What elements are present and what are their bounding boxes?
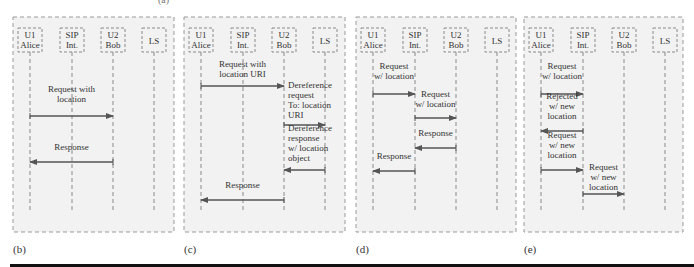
message-label: response xyxy=(288,133,320,143)
participant-label: LS xyxy=(149,36,160,46)
participant-label: Int. xyxy=(409,40,421,50)
message-label: w/ location xyxy=(288,143,329,153)
participant-label: SIP xyxy=(408,30,421,40)
message-label: Response xyxy=(418,128,453,138)
participant-label: Int. xyxy=(577,40,589,50)
participant-label: U1 xyxy=(25,30,36,40)
message-label: Response xyxy=(54,142,89,152)
participant-label: LS xyxy=(320,36,331,46)
message-label: Dereference xyxy=(288,80,332,90)
participant-label: SIP xyxy=(65,30,78,40)
panel-label-b: (b) xyxy=(13,243,26,255)
message-label: w/ new xyxy=(549,101,576,111)
panel-label-d: (d) xyxy=(356,243,369,255)
message-label: location xyxy=(548,111,577,121)
participant-label: Bob xyxy=(276,40,292,50)
panel-label-e: (e) xyxy=(524,243,536,255)
participant-label: Bob xyxy=(105,40,121,50)
participant-label: U2 xyxy=(619,30,630,40)
message-label: w/ location xyxy=(415,99,456,109)
participant-label: SIP xyxy=(576,30,589,40)
message-label: object xyxy=(288,153,310,163)
message-label: location xyxy=(548,150,577,160)
participant-label: U2 xyxy=(279,30,290,40)
message-label: URI xyxy=(288,110,304,120)
message-label: Response xyxy=(377,151,412,161)
message-label: Rejected xyxy=(546,91,578,101)
message-label: w/ location xyxy=(374,71,415,81)
sequence-diagrams: U1AliceSIPInt.U2BobLSRequest withlocatio… xyxy=(0,0,694,267)
message-label: w/ new xyxy=(549,140,576,150)
panel-e: U1AliceSIPInt.U2BobLSRequestw/ locationR… xyxy=(524,17,683,232)
participant-label: U1 xyxy=(368,30,379,40)
participant-label: Int. xyxy=(66,40,78,50)
message-label: location xyxy=(589,182,618,192)
message-label: Dereference xyxy=(288,123,332,133)
message-label: request xyxy=(288,90,314,100)
participant-label: Int. xyxy=(237,40,249,50)
participant-label: SIP xyxy=(236,30,249,40)
participant-label: U1 xyxy=(196,30,207,40)
message-label: Request xyxy=(548,130,577,140)
message-label: location xyxy=(57,94,86,104)
participant-label: U1 xyxy=(536,30,547,40)
message-label: Response xyxy=(225,180,260,190)
participant-label: Alice xyxy=(191,40,211,50)
panel-label-c: (c) xyxy=(184,243,196,255)
panel-c: U1AliceSIPInt.U2BobLSRequest withlocatio… xyxy=(184,17,345,232)
message-label: w/ location xyxy=(542,71,583,81)
participant-label: Alice xyxy=(531,40,551,50)
message-label: location URI xyxy=(219,69,266,79)
participant-label: U2 xyxy=(108,30,119,40)
message-label: Request xyxy=(548,61,577,71)
participant-label: LS xyxy=(660,36,671,46)
message-label: Request xyxy=(380,61,409,71)
message-label: To: location xyxy=(288,100,332,110)
message-label: Request xyxy=(589,162,618,172)
message-label: Request with xyxy=(219,59,267,69)
participant-label: Alice xyxy=(20,40,40,50)
participant-label: LS xyxy=(492,36,503,46)
participant-label: Alice xyxy=(363,40,383,50)
participant-label: Bob xyxy=(616,40,632,50)
participant-label: Bob xyxy=(448,40,464,50)
panel-b: U1AliceSIPInt.U2BobLSRequest withlocatio… xyxy=(13,17,174,232)
message-label: Request xyxy=(421,89,450,99)
message-label: w/ new xyxy=(590,172,617,182)
message-label: Request with xyxy=(48,84,96,94)
participant-label: U2 xyxy=(451,30,462,40)
panel-d: U1AliceSIPInt.U2BobLSRequestw/ locationR… xyxy=(356,17,516,232)
